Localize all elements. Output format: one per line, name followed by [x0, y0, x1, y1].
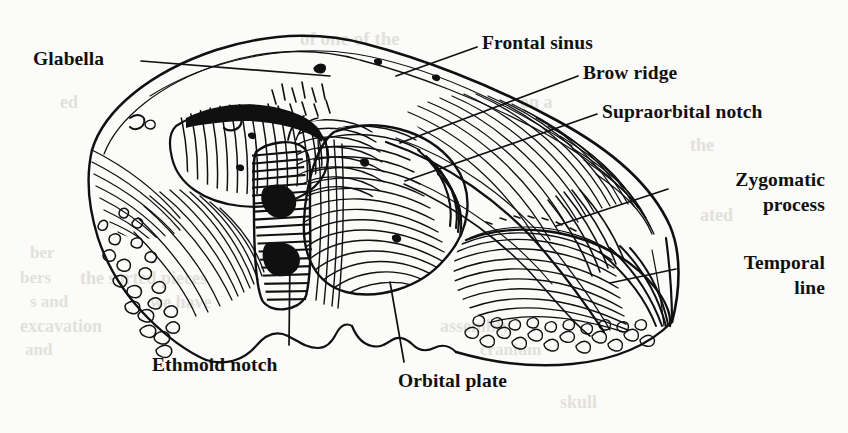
label-brow-ridge-text: Brow ridge	[583, 62, 677, 83]
label-ethmoid-notch-text: Ethmoid notch	[152, 354, 277, 375]
label-temporal-line-line2: line	[681, 275, 825, 300]
label-supraorbital-notch-text: Supraorbital notch	[602, 101, 763, 122]
label-zygomatic-process: Zygomatic process	[673, 167, 825, 218]
label-zygomatic-process-line1: Zygomatic	[673, 167, 825, 192]
figure-page: of one of theon aedtheatedberbersthe sor…	[0, 0, 848, 433]
label-brow-ridge: Brow ridge	[583, 60, 677, 85]
label-orbital-plate: Orbital plate	[398, 368, 507, 393]
label-temporal-line: Temporal line	[681, 250, 825, 301]
label-frontal-sinus-text: Frontal sinus	[482, 32, 593, 53]
leader-line-orbital-plate	[390, 282, 404, 362]
label-orbital-plate-text: Orbital plate	[398, 370, 507, 391]
label-glabella-text: Glabella	[33, 48, 104, 69]
label-glabella: Glabella	[33, 46, 104, 71]
label-ethmoid-notch: Ethmoid notch	[152, 352, 277, 377]
label-zygomatic-process-line2: process	[673, 192, 825, 217]
leader-lines-group	[141, 47, 676, 362]
label-supraorbital-notch: Supraorbital notch	[602, 99, 763, 124]
leader-line-ethmoid-notch	[289, 255, 290, 345]
label-frontal-sinus: Frontal sinus	[482, 30, 593, 55]
leader-line-frontal-sinus	[396, 47, 477, 76]
label-temporal-line-line1: Temporal	[681, 250, 825, 275]
